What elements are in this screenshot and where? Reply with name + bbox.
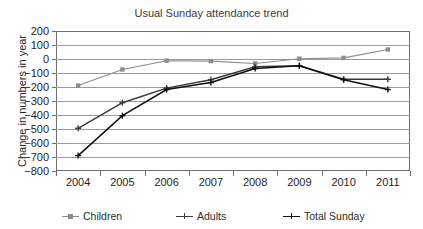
- x-axis-tick-label: 2004: [58, 176, 98, 188]
- chart-container: Usual Sunday attendance trend Change in …: [0, 0, 423, 229]
- legend-item-adults[interactable]: Adults: [176, 210, 226, 222]
- y-axis-tick-label: 100: [0, 39, 49, 51]
- x-axis-tick: [100, 171, 101, 176]
- chart-title: Usual Sunday attendance trend: [0, 7, 423, 19]
- legend-marker-icon: [283, 212, 300, 221]
- data-point-marker: [119, 100, 125, 106]
- x-axis-tick: [189, 171, 190, 176]
- y-axis-tick-label: −300: [0, 95, 49, 107]
- x-axis-tick: [366, 171, 367, 176]
- x-axis-tick: [410, 171, 411, 176]
- x-axis-tick-label: 2007: [191, 176, 231, 188]
- data-point-marker: [75, 125, 81, 131]
- x-axis-tick-label: 2011: [368, 176, 408, 188]
- x-axis-tick: [277, 171, 278, 176]
- y-axis-tick-label: −500: [0, 123, 49, 135]
- data-point-marker: [164, 58, 168, 62]
- series-lines: [56, 31, 410, 171]
- data-point-marker: [341, 77, 347, 83]
- legend-label: Children: [83, 210, 122, 222]
- y-axis-tick-label: −800: [0, 165, 49, 177]
- plot-area: [56, 31, 410, 171]
- x-axis-tick-label: 2009: [279, 176, 319, 188]
- data-point-marker: [296, 63, 302, 69]
- data-point-marker: [76, 83, 80, 87]
- x-axis-tick: [56, 171, 57, 176]
- legend-item-total-sunday[interactable]: Total Sunday: [283, 210, 365, 222]
- y-axis-tick-label: −400: [0, 109, 49, 121]
- data-point-marker: [385, 76, 391, 82]
- x-axis-tick-label: 2006: [147, 176, 187, 188]
- legend-label: Total Sunday: [304, 210, 365, 222]
- data-point-marker: [386, 47, 390, 51]
- legend-marker-icon: [62, 212, 79, 221]
- y-axis-tick-label: −600: [0, 137, 49, 149]
- y-axis-tick-label: 200: [0, 25, 49, 37]
- x-axis-tick-label: 2005: [102, 176, 142, 188]
- x-axis-tick: [145, 171, 146, 176]
- y-axis-tick-label: 0: [0, 53, 49, 65]
- data-point-marker: [297, 57, 301, 61]
- legend-marker-icon: [176, 212, 193, 221]
- x-axis-tick-label: 2008: [235, 176, 275, 188]
- y-axis-tick-label: −200: [0, 81, 49, 93]
- x-axis-tick-label: 2010: [324, 176, 364, 188]
- data-point-marker: [209, 59, 213, 63]
- x-axis-tick: [233, 171, 234, 176]
- x-axis-tick: [322, 171, 323, 176]
- data-point-marker: [385, 87, 391, 93]
- y-axis-tick-label: −700: [0, 151, 49, 163]
- data-point-marker: [341, 56, 345, 60]
- legend-item-children[interactable]: Children: [62, 210, 122, 222]
- data-point-marker: [120, 67, 124, 71]
- y-axis-tick-label: −100: [0, 67, 49, 79]
- chart-legend: ChildrenAdultsTotal Sunday: [0, 207, 423, 227]
- legend-label: Adults: [197, 210, 226, 222]
